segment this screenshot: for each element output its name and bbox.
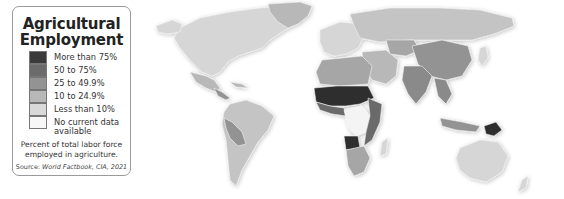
legend-title: Agricultural Employment (13, 16, 130, 48)
legend-title-line1: Agricultural (13, 16, 130, 32)
region-australia (456, 140, 508, 182)
map-legend: Agricultural Employment More than 75% 50… (12, 6, 131, 176)
legend-label-line2: available (54, 127, 119, 136)
legend-source: Source: World Factbook, CIA, 2021 (13, 163, 130, 171)
region-madagascar (380, 138, 388, 156)
region-central-america (214, 88, 230, 100)
region-new-zealand (518, 176, 528, 192)
world-map (150, 0, 564, 199)
region-alaska (156, 20, 182, 34)
legend-label: Less than 10% (54, 103, 115, 116)
legend-swatch (29, 64, 47, 77)
legend-label: No current data available (54, 118, 119, 136)
region-north-africa (316, 56, 372, 86)
legend-label: 10 to 24.9% (54, 90, 105, 103)
legend-note-line2: employed in agriculture. (13, 150, 130, 160)
legend-label: More than 75% (54, 51, 117, 64)
legend-note: Percent of total labor force employed in… (13, 140, 130, 159)
source-prefix: Source: (16, 163, 42, 171)
region-russia (350, 8, 514, 42)
legend-label: 50 to 75% (54, 64, 97, 77)
legend-swatch (29, 51, 47, 64)
region-papua-new-guinea (484, 122, 502, 136)
region-south-america (222, 100, 274, 186)
region-indonesia (440, 118, 480, 132)
legend-note-line1: Percent of total labor force (13, 140, 130, 150)
source-text: World Factbook, CIA, 2021 (42, 163, 127, 171)
legend-swatch (29, 77, 47, 90)
legend-label: 25 to 49.9% (54, 77, 105, 90)
region-sahel (314, 86, 374, 106)
region-japan (478, 46, 488, 66)
region-southern-africa (346, 146, 370, 176)
region-india (402, 66, 432, 104)
legend-swatch (29, 103, 47, 116)
region-caribbean (230, 82, 248, 88)
legend-swatch (29, 116, 47, 129)
legend-title-line2: Employment (13, 32, 130, 48)
region-southeast-asia (434, 78, 452, 104)
legend-swatch (29, 90, 47, 103)
